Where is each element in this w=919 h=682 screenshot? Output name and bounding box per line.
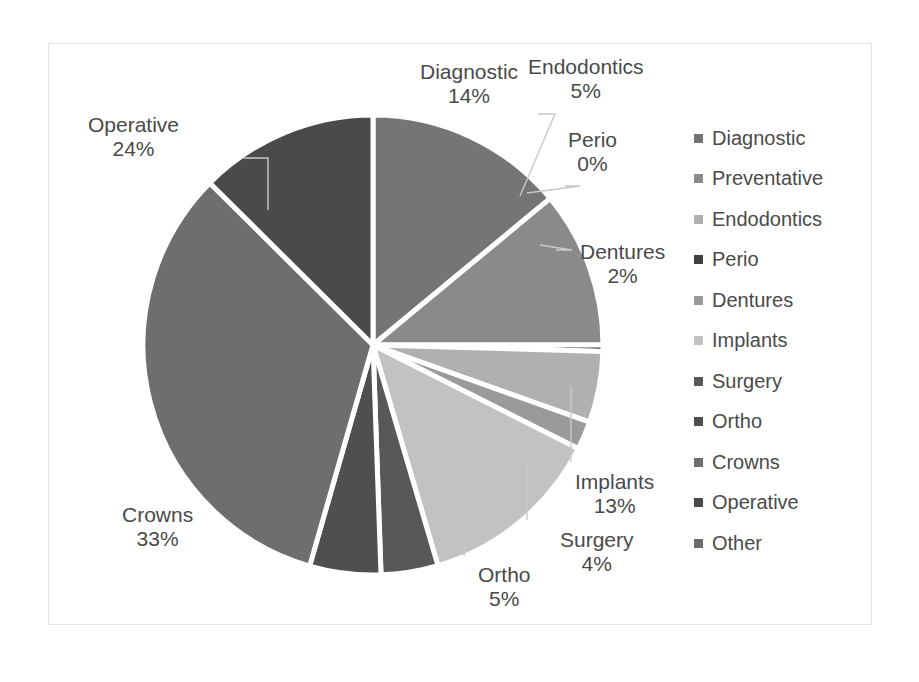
slice-label-surgery: Surgery4% bbox=[560, 528, 634, 576]
slice-label-name: Dentures bbox=[580, 240, 665, 263]
legend-item-implants[interactable]: Implants bbox=[694, 321, 854, 362]
slice-label-name: Implants bbox=[575, 470, 654, 493]
legend-item-preventative[interactable]: Preventative bbox=[694, 159, 854, 200]
legend-item-diagnostic[interactable]: Diagnostic bbox=[694, 118, 854, 159]
legend-item-label: Diagnostic bbox=[712, 127, 805, 150]
slice-label-name: Crowns bbox=[122, 503, 193, 526]
legend-item-surgery[interactable]: Surgery bbox=[694, 361, 854, 402]
legend-item-other[interactable]: Other bbox=[694, 523, 854, 564]
slice-label-endodontics: Endodontics5% bbox=[528, 55, 644, 103]
legend-swatch-icon bbox=[694, 255, 703, 264]
legend-item-label: Endodontics bbox=[712, 208, 822, 231]
legend-item-label: Perio bbox=[712, 248, 759, 271]
legend-item-label: Operative bbox=[712, 491, 799, 514]
slice-label-value: 13% bbox=[575, 494, 654, 518]
legend-swatch-icon bbox=[694, 377, 703, 386]
slice-label-value: 0% bbox=[568, 152, 617, 176]
legend-item-label: Other bbox=[712, 532, 762, 555]
slice-label-value: 2% bbox=[580, 264, 665, 288]
slice-label-value: 24% bbox=[88, 137, 179, 161]
legend-swatch-icon bbox=[694, 174, 703, 183]
legend-item-dentures[interactable]: Dentures bbox=[694, 280, 854, 321]
slice-label-value: 5% bbox=[478, 587, 531, 611]
legend-item-label: Preventative bbox=[712, 167, 823, 190]
slice-label-diagnostic: Diagnostic14% bbox=[420, 60, 518, 108]
slice-label-implants: Implants13% bbox=[575, 470, 654, 518]
legend-swatch-icon bbox=[694, 417, 703, 426]
legend-item-label: Crowns bbox=[712, 451, 780, 474]
legend-item-endodontics[interactable]: Endodontics bbox=[694, 199, 854, 240]
legend-swatch-icon bbox=[694, 539, 703, 548]
slice-label-name: Endodontics bbox=[528, 55, 644, 78]
legend-item-crowns[interactable]: Crowns bbox=[694, 442, 854, 483]
legend-item-label: Surgery bbox=[712, 370, 782, 393]
legend-swatch-icon bbox=[694, 296, 703, 305]
legend-item-label: Dentures bbox=[712, 289, 793, 312]
slice-label-value: 33% bbox=[122, 527, 193, 551]
slice-label-name: Surgery bbox=[560, 528, 634, 551]
legend-item-perio[interactable]: Perio bbox=[694, 240, 854, 281]
slice-label-name: Operative bbox=[88, 113, 179, 136]
slice-label-name: Diagnostic bbox=[420, 60, 518, 83]
legend-item-operative[interactable]: Operative bbox=[694, 483, 854, 524]
slice-label-operative: Operative24% bbox=[88, 113, 179, 161]
legend-item-label: Implants bbox=[712, 329, 788, 352]
slice-label-name: Ortho bbox=[478, 563, 531, 586]
slice-label-name: Perio bbox=[568, 128, 617, 151]
legend-item-ortho[interactable]: Ortho bbox=[694, 402, 854, 443]
slice-label-value: 4% bbox=[560, 552, 634, 576]
slice-label-value: 5% bbox=[528, 79, 644, 103]
slice-label-value: 14% bbox=[420, 84, 518, 108]
slice-label-crowns: Crowns33% bbox=[122, 503, 193, 551]
slice-label-perio: Perio0% bbox=[568, 128, 617, 176]
slice-label-ortho: Ortho5% bbox=[478, 563, 531, 611]
legend-swatch-icon bbox=[694, 458, 703, 467]
legend-item-label: Ortho bbox=[712, 410, 762, 433]
chart-legend: DiagnosticPreventativeEndodonticsPerioDe… bbox=[694, 118, 854, 564]
legend-swatch-icon bbox=[694, 336, 703, 345]
legend-swatch-icon bbox=[694, 498, 703, 507]
slice-label-dentures: Dentures2% bbox=[580, 240, 665, 288]
legend-swatch-icon bbox=[694, 134, 703, 143]
legend-swatch-icon bbox=[694, 215, 703, 224]
